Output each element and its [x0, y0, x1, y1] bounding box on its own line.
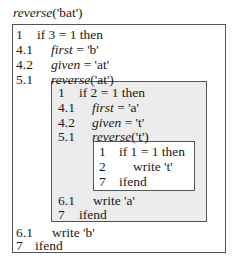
- line-number: 7: [58, 207, 65, 222]
- line-number: 5.1: [58, 129, 75, 144]
- code-text: given = 'at': [51, 57, 109, 72]
- line-number: 7: [99, 174, 106, 189]
- line-number: 5.1: [16, 72, 33, 87]
- code-text: if 3 = 1 then: [37, 27, 103, 42]
- code-text: write 'a': [93, 193, 135, 208]
- line-number: 4.1: [16, 42, 33, 57]
- code-text: first = 'b': [51, 42, 99, 57]
- line-number: 4.2: [16, 57, 33, 72]
- line-number: 2: [99, 159, 106, 174]
- code-text: if 2 = 1 then: [79, 85, 145, 100]
- code-text: if 1 = 1 then: [119, 144, 185, 159]
- line-number: 1: [58, 85, 65, 100]
- title-arg: ('bat'): [52, 5, 82, 20]
- line-number: 1: [16, 27, 23, 42]
- code-text: reverse('t'): [92, 129, 149, 144]
- code-text: write 't': [133, 159, 173, 174]
- line-number: 4.2: [58, 115, 75, 130]
- code-text: ifend: [79, 207, 107, 222]
- code-text: ifend: [119, 174, 147, 189]
- code-text: given = 't': [92, 115, 144, 130]
- title-func: reverse: [13, 5, 52, 20]
- line-number: 6.1: [58, 193, 75, 208]
- line-number: 4.1: [58, 100, 75, 115]
- trace-title: reverse('bat'): [13, 5, 83, 20]
- line-number: 7: [16, 238, 23, 253]
- code-text: first = 'a': [92, 100, 139, 115]
- code-text: ifend: [35, 238, 63, 253]
- line-number: 1: [99, 144, 106, 159]
